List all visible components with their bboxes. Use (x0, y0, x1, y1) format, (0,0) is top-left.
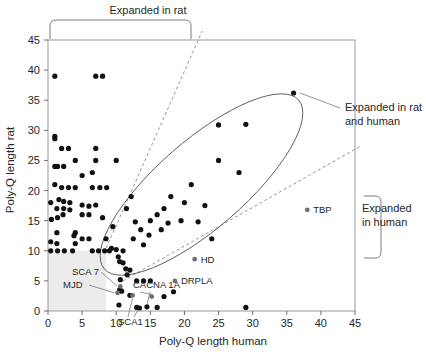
y-tick-label: 30 (28, 124, 40, 136)
ellipse-rat-and-human (76, 67, 328, 302)
data-point (120, 260, 125, 265)
data-point (236, 170, 241, 175)
data-point (118, 277, 123, 282)
data-point (52, 136, 57, 141)
data-point (55, 164, 60, 169)
data-point (168, 194, 173, 199)
data-point (161, 294, 166, 299)
annotation-expanded-human-line2: in human (362, 216, 407, 228)
x-axis-title: Poly-Q length human (159, 335, 267, 347)
data-point (216, 122, 221, 127)
data-point (116, 302, 121, 307)
annotation-braces (50, 20, 381, 258)
data-point (155, 212, 160, 217)
x-tick-label: 40 (315, 317, 327, 329)
data-point (182, 200, 187, 205)
y-tick-label: 10 (28, 245, 40, 257)
data-point (243, 122, 248, 127)
data-point (102, 248, 107, 253)
data-point (110, 224, 115, 229)
data-point (120, 248, 125, 253)
y-axis-title: Poly-Q length rat (4, 126, 16, 213)
data-point (86, 204, 91, 209)
data-point (48, 248, 53, 253)
data-point (55, 215, 60, 220)
data-point (67, 207, 72, 212)
data-point (137, 305, 142, 310)
x-tick-label: 0 (45, 317, 51, 329)
data-point (93, 202, 98, 207)
x-tick-label: 25 (212, 317, 224, 329)
labeled-point-sca-7 (118, 284, 123, 289)
label-hd: HD (201, 254, 215, 265)
data-point (114, 247, 119, 252)
x-tick-label: 30 (247, 317, 259, 329)
data-point (93, 74, 98, 79)
data-point (71, 233, 76, 238)
data-point (96, 248, 101, 253)
x-tick-label: 35 (281, 317, 293, 329)
y-tick-label: 20 (28, 185, 40, 197)
data-point (90, 185, 95, 190)
data-point (49, 217, 54, 222)
data-point (93, 146, 98, 151)
data-point (124, 206, 129, 211)
labeled-point-cacna-1a (149, 294, 154, 299)
data-point (66, 146, 71, 151)
data-point (61, 206, 66, 211)
y-tick-label: 45 (28, 34, 40, 46)
label-sca1: SCA1 (118, 316, 143, 327)
labeled-point-hd (192, 257, 197, 262)
data-point (133, 219, 138, 224)
data-point (59, 185, 64, 190)
labeled-point-tbp (305, 207, 310, 212)
y-tick-label: 5 (34, 275, 40, 287)
data-point (125, 272, 130, 277)
data-point (56, 197, 61, 202)
x-tick-label: 45 (349, 317, 361, 329)
data-point (100, 215, 105, 220)
data-point (54, 230, 59, 235)
labeled-point-mjd (115, 291, 120, 296)
label-sca7: SCA 7 (72, 266, 99, 277)
x-tick-label: 5 (79, 317, 85, 329)
data-point (127, 267, 132, 272)
data-point (90, 248, 95, 253)
data-point (103, 236, 108, 241)
data-point (55, 248, 60, 253)
data-point (60, 212, 65, 217)
data-point (155, 305, 160, 310)
y-tick-label: 0 (34, 305, 40, 317)
data-point (114, 158, 119, 163)
data-point (129, 194, 134, 199)
data-point (141, 242, 146, 247)
data-point (148, 218, 153, 223)
data-point (80, 202, 85, 207)
data-point (54, 206, 59, 211)
data-point (62, 248, 67, 253)
data-point (52, 74, 57, 79)
data-point (109, 246, 114, 251)
data-point (73, 241, 78, 246)
data-point (86, 212, 91, 217)
data-point (61, 164, 66, 169)
data-point (73, 158, 78, 163)
data-point (209, 236, 214, 241)
annotation-expanded-human-line1: Expanded (362, 202, 412, 214)
x-tick-label: 20 (178, 317, 190, 329)
scatter-plot-figure: 051015202530354045 051015202530354045 HD… (0, 0, 426, 354)
data-point (144, 304, 149, 309)
annotation-expanded-rat-human-line1: Expanded in rat (345, 101, 422, 113)
label-drpla: DRPLA (181, 275, 213, 286)
data-point (243, 305, 248, 310)
label-cacna1a: CACNA 1A (133, 279, 181, 290)
data-point (131, 236, 136, 241)
data-point (178, 218, 183, 223)
data-point (73, 185, 78, 190)
data-point (104, 185, 109, 190)
data-point (66, 185, 71, 190)
label-tbp: TBP (313, 204, 331, 215)
data-point (146, 233, 151, 238)
data-point (159, 227, 164, 232)
y-tick-label: 15 (28, 215, 40, 227)
